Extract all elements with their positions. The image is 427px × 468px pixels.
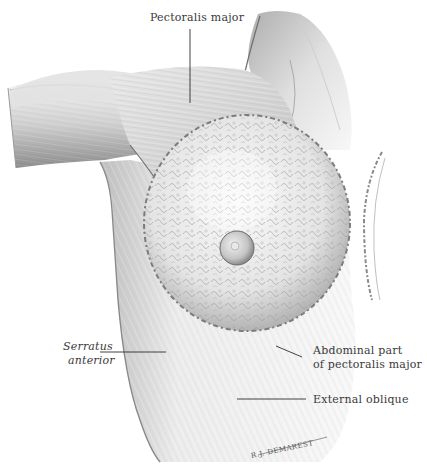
label-abdominal-part-line1: Abdominal part xyxy=(313,344,402,357)
nipple xyxy=(220,231,254,265)
label-external-oblique: External oblique xyxy=(313,393,409,406)
contralateral-breast-edge xyxy=(364,152,385,300)
label-serratus-anterior-line1: Serratus xyxy=(63,340,113,353)
label-serratus-anterior-line2: anterior xyxy=(68,354,115,367)
breast xyxy=(144,115,350,331)
label-pectoralis-major: Pectoralis major xyxy=(150,11,244,24)
anatomy-figure: Pectoralis major Serratus anterior Abdom… xyxy=(0,0,427,468)
label-abdominal-part-line2: of pectoralis major xyxy=(313,358,422,371)
